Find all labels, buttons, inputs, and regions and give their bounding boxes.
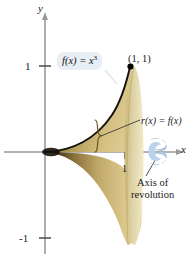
axis-of-revolution-label: Axis ofrevolution	[131, 177, 174, 201]
y-axis-label: y	[38, 2, 43, 14]
function-label-text: f(x) = x	[62, 55, 94, 66]
x-axis-label: x	[181, 143, 186, 155]
axis-of-revolution-line-2: revolution	[131, 189, 174, 200]
y-tick-label-negative-1: -1	[19, 232, 28, 244]
function-label-callout: f(x) = x3	[57, 52, 102, 70]
axis-of-revolution-line-1: Axis of	[137, 177, 168, 188]
solid-of-revolution	[42, 63, 144, 245]
point-coordinate-label: (1, 1)	[128, 53, 151, 65]
y-tick-label-1: 1	[25, 60, 31, 72]
callout-tail-line	[105, 70, 117, 84]
x-tick-label-1: 1	[122, 163, 127, 174]
solid-of-revolution-figure: y x 1 -1 1 f(x) = x3 (1, 1) r(x) = f(x) …	[0, 0, 195, 256]
figure-canvas	[0, 0, 195, 256]
radius-function-label: r(x) = f(x)	[141, 115, 182, 126]
function-callout-tail	[104, 70, 117, 84]
function-label-exponent: 3	[94, 54, 98, 62]
